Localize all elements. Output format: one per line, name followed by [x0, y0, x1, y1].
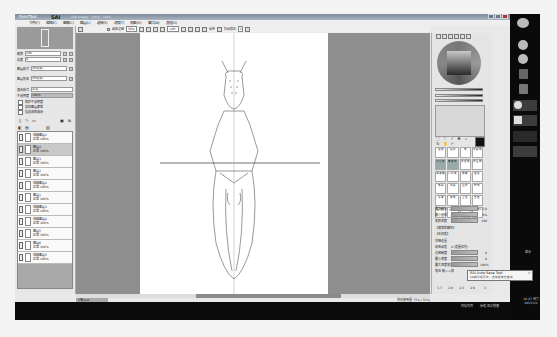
- layer-item[interactable]: 图层5正常 100%: [18, 228, 72, 240]
- visibility-icon[interactable]: [19, 182, 23, 189]
- layer-mode-button[interactable]: [69, 67, 73, 71]
- scratchpad-tab[interactable]: [466, 34, 471, 39]
- navigator-frame[interactable]: [41, 29, 49, 47]
- visibility-icon[interactable]: [19, 134, 23, 141]
- brush-texture-select[interactable]: 【无材质】: [435, 232, 465, 236]
- rgb-slider-tab[interactable]: [442, 34, 447, 39]
- size-preset[interactable]: 3: [479, 286, 486, 290]
- close-button[interactable]: [502, 14, 508, 19]
- stabilizer-select[interactable]: 3: [238, 26, 244, 32]
- swatches-tab[interactable]: [460, 34, 465, 39]
- chat-app-icon[interactable]: [518, 54, 528, 64]
- brush-tool[interactable]: 选取笔: [460, 159, 471, 170]
- brush-tool-selected[interactable]: 马克笔: [435, 159, 446, 170]
- size-preset[interactable]: 1.7: [435, 286, 442, 290]
- layer-item[interactable]: 线稿图层1正常 100%: [18, 132, 72, 144]
- taskbar-app-button[interactable]: [513, 100, 537, 111]
- hand-tool-icon[interactable]: ✋: [442, 142, 448, 146]
- taskbar-sai-button[interactable]: [513, 115, 537, 126]
- hsv-slider-tab[interactable]: [448, 34, 453, 39]
- saturation-slider[interactable]: [435, 94, 483, 97]
- zoom-field[interactable]: 100: [25, 51, 61, 56]
- layer-item[interactable]: 图层4正常 100%: [18, 144, 72, 156]
- swatch-grid[interactable]: [435, 105, 485, 137]
- rotate-reset-button[interactable]: [195, 27, 200, 32]
- visibility-icon[interactable]: [19, 170, 23, 177]
- taskbar-app-button[interactable]: [513, 146, 537, 157]
- notification-balloon[interactable]: SAI Auto Save Tool SAI程序运行中，自动保存已启动 x: [467, 270, 533, 281]
- zoom-tool-icon[interactable]: ⌕: [463, 137, 469, 141]
- layer-item[interactable]: 线稿图层2正常 100%: [18, 180, 72, 192]
- layer-item[interactable]: 线稿图层5正常 100%: [18, 252, 72, 264]
- rotate-right-button[interactable]: [69, 58, 73, 62]
- zoom-out-tool-button[interactable]: [146, 27, 151, 32]
- brush-tool[interactable]: 图层: [460, 183, 471, 194]
- window-app-icon[interactable]: [519, 69, 528, 79]
- new-layer-icon[interactable]: ▯: [17, 118, 23, 123]
- hue-slider[interactable]: [435, 88, 483, 91]
- brush-tool[interactable]: 二值笔: [447, 171, 458, 182]
- start-button-icon[interactable]: [517, 18, 529, 28]
- visibility-icon[interactable]: [19, 254, 23, 261]
- rotation-field[interactable]: +00°: [167, 26, 179, 32]
- blend-mode-select[interactable]: 正常: [31, 87, 73, 92]
- flip-button[interactable]: [217, 27, 222, 32]
- visibility-icon[interactable]: [19, 146, 23, 153]
- visibility-icon[interactable]: [19, 206, 23, 213]
- rotate-cw-button[interactable]: [188, 27, 193, 32]
- brush-size-slider[interactable]: [451, 206, 478, 211]
- zoom-in-tool-button[interactable]: [139, 27, 144, 32]
- rotate-tool-icon[interactable]: ↻: [435, 142, 441, 146]
- size-preset[interactable]: 2.0: [446, 286, 453, 290]
- visibility-icon[interactable]: [19, 242, 23, 249]
- opacity-slider[interactable]: 100%: [31, 93, 73, 98]
- layer-item[interactable]: 图层3正常 100%: [18, 156, 72, 168]
- selection-edge-checkbox[interactable]: [107, 28, 110, 31]
- stabilizer-button[interactable]: [245, 27, 250, 32]
- brush-shape-select[interactable]: 【通常的圆形】: [435, 226, 465, 230]
- clipping-mask-checkbox[interactable]: 剪贴图层蒙版: [18, 105, 43, 109]
- visibility-icon[interactable]: [19, 194, 23, 201]
- visibility-icon[interactable]: [19, 230, 23, 237]
- brush-tool[interactable]: 上色: [460, 195, 471, 206]
- zoom-out-button[interactable]: [69, 52, 73, 56]
- brush-tool[interactable]: 橡皮擦: [447, 159, 458, 170]
- app-icon[interactable]: [518, 40, 528, 50]
- brush-tool[interactable]: 模糊: [460, 171, 471, 182]
- selection-source-checkbox[interactable]: 指定选取来源: [18, 110, 43, 114]
- maximize-button[interactable]: [495, 14, 501, 19]
- size-preset[interactable]: 2.3: [457, 286, 464, 290]
- clear-layer-icon[interactable]: ◧: [17, 125, 23, 130]
- layer-mode-select[interactable]: (无效果): [31, 66, 67, 71]
- eyedropper-icon[interactable]: ⌿: [449, 142, 455, 146]
- new-folder-icon[interactable]: ▭: [31, 118, 37, 123]
- min-density-slider[interactable]: [451, 256, 478, 261]
- brush-tool[interactable]: 笔: [460, 147, 471, 158]
- document-tab[interactable]: 5喵.psd: [76, 298, 108, 302]
- canvas-paper[interactable]: [140, 33, 328, 294]
- layer-item[interactable]: 图层2正常 100%: [18, 168, 72, 180]
- color-wheel-tab[interactable]: [436, 34, 441, 39]
- protect-opacity-checkbox[interactable]: 保护不透明度: [18, 100, 43, 104]
- layer-effect-select[interactable]: (无效果): [31, 76, 67, 81]
- saturation-value-square[interactable]: [447, 51, 471, 75]
- brush-tool[interactable]: 喷枪: [447, 147, 458, 158]
- zoom-reset-button[interactable]: [160, 27, 165, 32]
- rotate-ccw-button[interactable]: [181, 27, 186, 32]
- brush-tool[interactable]: 选区擦: [472, 159, 483, 170]
- system-tray-label[interactable]: 显示: [517, 250, 539, 254]
- layer-item[interactable]: 图层6正常 100%: [18, 240, 72, 252]
- layer-effect-button[interactable]: [69, 77, 73, 81]
- brush-tool[interactable]: 水彩: [447, 183, 458, 194]
- canvas-area[interactable]: [76, 33, 430, 294]
- color-wheel[interactable]: [437, 41, 481, 85]
- size-preset[interactable]: 2.6: [468, 286, 475, 290]
- taskbar-app-button[interactable]: [513, 131, 537, 142]
- brush-tool[interactable]: 特效: [472, 183, 483, 194]
- folder-app-icon[interactable]: [519, 84, 528, 94]
- value-slider[interactable]: [435, 99, 483, 102]
- layer-item[interactable]: 线稿图层4正常 100%: [18, 216, 72, 228]
- brush-tool[interactable]: 水彩笔: [472, 147, 483, 158]
- copy-layer-icon[interactable]: ▤: [24, 125, 30, 130]
- brush-tool[interactable]: 油漆桶: [435, 171, 446, 182]
